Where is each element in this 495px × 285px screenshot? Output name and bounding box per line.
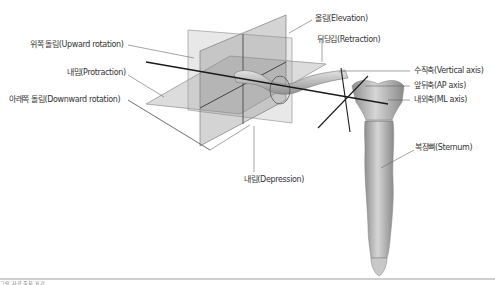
label-protraction: 내밈(Protraction) [67,68,126,78]
label-ap-axis: 앞뒤축(AP axis) [414,81,466,91]
label-ml-axis: 내외축(ML axis) [414,95,467,105]
sternum-body [365,121,394,258]
label-vertical-axis: 수직축(Vertical axis) [414,66,483,76]
bottom-divider [0,278,495,280]
figure-caption: 그림 자료 출처 표기 [0,281,45,285]
diagram-canvas: 위쪽 돌림(Upward rotation) 내밈(Protraction) 아… [0,0,495,285]
xiphoid-process [371,258,387,276]
label-retraction: 뒤당김(Retraction) [317,35,380,45]
label-depression: 내림(Depression) [244,175,304,185]
label-downward-rotation: 아래쪽 돌림(Downward rotation) [9,95,120,105]
label-sternum: 복장뼈(Sternum) [415,143,472,153]
label-elevation: 올림(Elevation) [315,14,368,24]
label-upward-rotation: 위쪽 돌림(Upward rotation) [30,40,124,50]
